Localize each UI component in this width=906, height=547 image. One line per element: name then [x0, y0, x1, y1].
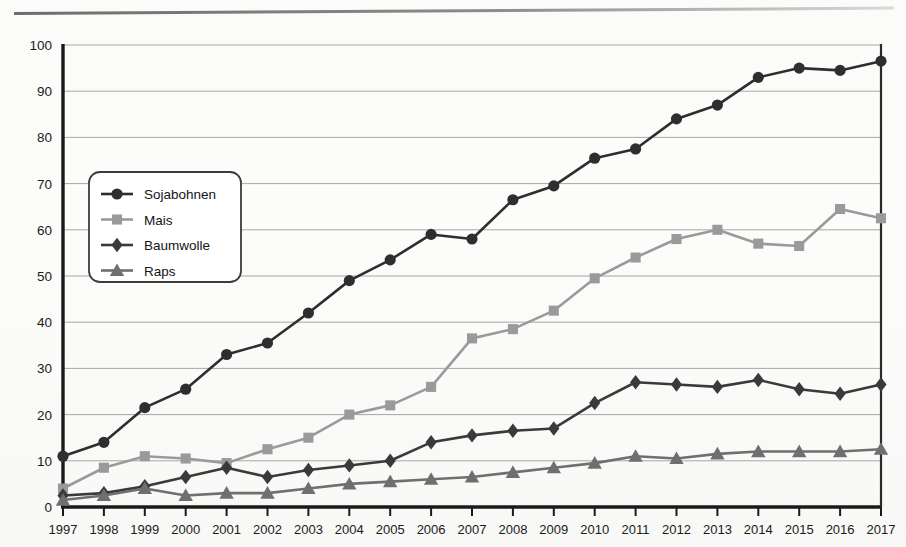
series-raps [56, 442, 888, 505]
data-point-marker [548, 180, 559, 191]
data-point-marker [303, 463, 314, 477]
x-tick-label: 2007 [458, 522, 487, 537]
x-tick-label: 2015 [785, 522, 814, 537]
data-point-marker [589, 396, 600, 410]
data-point-marker [712, 99, 723, 110]
y-tick-label: 30 [37, 361, 52, 376]
data-point-marker [262, 444, 272, 454]
data-point-marker [794, 63, 805, 74]
data-point-marker [385, 254, 396, 265]
x-tick-label: 2003 [294, 522, 323, 537]
y-tick-label: 60 [37, 223, 52, 238]
y-tick-label: 100 [29, 38, 52, 53]
data-point-marker [875, 56, 886, 67]
data-point-marker [344, 275, 355, 286]
x-tick-label: 2017 [867, 522, 896, 537]
data-point-marker [385, 454, 396, 468]
x-tick-label: 2008 [498, 522, 527, 537]
x-tick-label: 2006 [417, 522, 446, 537]
data-point-marker [712, 225, 722, 235]
data-point-marker [426, 435, 437, 449]
x-tick-label: 2005 [376, 522, 405, 537]
legend-label: Raps [144, 264, 176, 279]
chart-legend: SojabohnenMaisBaumwolleRaps [89, 172, 241, 282]
data-point-marker [631, 252, 641, 262]
data-point-marker [835, 204, 845, 214]
x-tick-labels-group: 1997199819992000200120022003200420052006… [49, 522, 896, 537]
x-tick-label: 2002 [253, 522, 282, 537]
data-point-marker [712, 380, 723, 394]
y-tick-label: 90 [37, 84, 52, 99]
y-tick-label: 40 [37, 315, 52, 330]
data-point-marker [344, 410, 354, 420]
data-point-marker [466, 428, 477, 442]
data-point-marker [753, 239, 763, 249]
data-point-marker [507, 194, 518, 205]
x-tick-label: 1998 [89, 522, 118, 537]
y-tick-label: 70 [37, 177, 52, 192]
data-point-marker [630, 375, 641, 389]
x-tick-label: 2001 [212, 522, 241, 537]
data-point-marker [262, 470, 273, 484]
legend-label: Mais [144, 213, 173, 228]
x-tick-label: 1999 [130, 522, 159, 537]
legend-label: Baumwolle [144, 238, 210, 253]
x-tick-label: 2011 [622, 522, 650, 537]
data-point-marker [57, 451, 68, 462]
legend-marker [112, 214, 122, 224]
x-tick-label: 1997 [49, 522, 78, 537]
x-tick-label: 2000 [171, 522, 200, 537]
data-point-marker [875, 377, 886, 391]
y-tick-label: 10 [37, 454, 52, 469]
y-tick-label: 80 [37, 130, 52, 145]
data-point-marker [508, 324, 518, 334]
line-chart: 0102030405060708090100 19971998199920002… [0, 24, 906, 547]
data-point-marker [671, 113, 682, 124]
data-point-marker [262, 337, 273, 348]
legend-marker [111, 188, 122, 199]
data-point-marker [303, 307, 314, 318]
data-point-marker [671, 234, 681, 244]
data-point-marker [794, 241, 804, 251]
y-tick-labels-group: 0102030405060708090100 [29, 38, 52, 515]
data-point-marker [630, 143, 641, 154]
data-point-marker [835, 387, 846, 401]
data-point-marker [181, 453, 191, 463]
data-point-marker [221, 349, 232, 360]
data-point-marker [180, 384, 191, 395]
data-point-marker [671, 377, 682, 391]
y-tick-label: 50 [37, 269, 52, 284]
x-tick-label: 2004 [335, 522, 364, 537]
data-point-marker [794, 382, 805, 396]
data-point-marker [549, 306, 559, 316]
x-tick-label: 2016 [826, 522, 855, 537]
y-tick-label: 0 [44, 500, 52, 515]
data-point-marker [548, 421, 559, 435]
x-tick-label: 2013 [703, 522, 732, 537]
data-point-marker [835, 65, 846, 76]
data-point-marker [139, 402, 150, 413]
data-point-marker [590, 273, 600, 283]
data-point-marker [507, 424, 518, 438]
chart-container: 0102030405060708090100 19971998199920002… [0, 24, 906, 547]
x-tick-label: 2014 [744, 522, 773, 537]
data-point-marker [303, 433, 313, 443]
data-point-marker [426, 229, 437, 240]
y-tick-label: 20 [37, 408, 52, 423]
data-point-marker [385, 400, 395, 410]
data-point-marker [180, 470, 191, 484]
x-tick-marks-group [63, 507, 881, 516]
data-point-marker [466, 233, 477, 244]
data-point-marker [98, 437, 109, 448]
x-tick-label: 2010 [580, 522, 609, 537]
data-point-marker [753, 373, 764, 387]
x-tick-label: 2009 [539, 522, 568, 537]
data-point-marker [753, 72, 764, 83]
legend-label: Sojabohnen [144, 187, 216, 202]
data-point-marker [140, 451, 150, 461]
data-point-marker [876, 213, 886, 223]
data-point-marker [589, 153, 600, 164]
data-point-marker [426, 382, 436, 392]
x-tick-label: 2012 [662, 522, 691, 537]
data-point-marker [467, 333, 477, 343]
